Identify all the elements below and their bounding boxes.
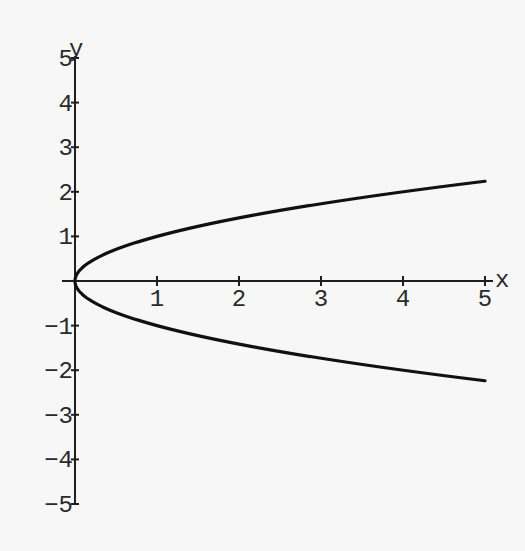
lower-branch-curve <box>75 281 485 381</box>
y-tick-label: 4 <box>59 91 73 118</box>
x-axis-label: x <box>495 267 509 294</box>
x-tick-label: 3 <box>314 286 328 313</box>
axes <box>62 56 493 504</box>
y-tick-label: −3 <box>44 403 73 430</box>
x-tick-label: 2 <box>232 286 246 313</box>
y-tick-label: −2 <box>44 358 73 385</box>
x-tick-label: 5 <box>478 286 492 313</box>
x-tick-label: 1 <box>150 286 164 313</box>
y-tick-label: −1 <box>44 314 73 341</box>
tick-labels: 1234554321−1−2−3−4−5xy <box>44 36 509 519</box>
y-tick-label: 2 <box>59 180 73 207</box>
y-axis-label: y <box>69 36 83 63</box>
upper-branch-curve <box>75 181 485 281</box>
y-tick-label: 1 <box>59 224 73 251</box>
y-tick-label: 3 <box>59 135 73 162</box>
y-tick-label: −5 <box>44 492 73 519</box>
y-tick-label: −4 <box>44 447 73 474</box>
plot-area: 1234554321−1−2−3−4−5xy <box>0 0 525 551</box>
x-tick-label: 4 <box>396 286 410 313</box>
